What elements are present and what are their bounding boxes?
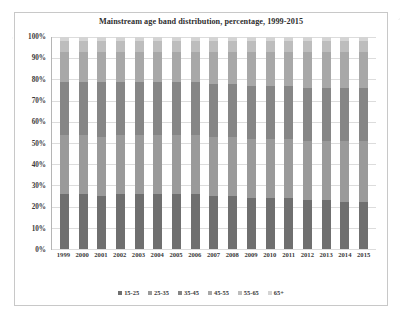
bar-segment-25-35[interactable] bbox=[359, 141, 368, 202]
bar-segment-35-45[interactable] bbox=[247, 86, 256, 139]
bar-segment-15-25[interactable] bbox=[135, 194, 144, 249]
bar-segment-35-45[interactable] bbox=[191, 82, 200, 135]
legend-item-45-55[interactable]: 45-55 bbox=[208, 289, 229, 296]
bar-segment-35-45[interactable] bbox=[60, 82, 69, 135]
bar-column[interactable] bbox=[354, 37, 373, 249]
bar-column[interactable] bbox=[261, 37, 280, 249]
bar-segment-15-25[interactable] bbox=[79, 194, 88, 249]
bar-segment-45-55[interactable] bbox=[359, 52, 368, 88]
bar-segment-25-35[interactable] bbox=[97, 137, 106, 196]
bar-column[interactable] bbox=[336, 37, 355, 249]
bar-column[interactable] bbox=[242, 37, 261, 249]
bar-segment-25-35[interactable] bbox=[322, 141, 331, 200]
bar-segment-55-65[interactable] bbox=[340, 41, 349, 52]
bar-segment-45-55[interactable] bbox=[303, 52, 312, 88]
bar-segment-55-65[interactable] bbox=[191, 41, 200, 52]
bar-segment-55-65[interactable] bbox=[303, 41, 312, 52]
bar-segment-45-55[interactable] bbox=[322, 52, 331, 88]
bar-segment-45-55[interactable] bbox=[135, 52, 144, 82]
bar-segment-35-45[interactable] bbox=[228, 84, 237, 137]
bar-column[interactable] bbox=[298, 37, 317, 249]
bar-column[interactable] bbox=[223, 37, 242, 249]
bar-segment-25-35[interactable] bbox=[303, 141, 312, 200]
bar-segment-35-45[interactable] bbox=[116, 82, 125, 135]
bar-segment-25-35[interactable] bbox=[247, 139, 256, 198]
bar-segment-35-45[interactable] bbox=[135, 82, 144, 135]
bar-segment-45-55[interactable] bbox=[247, 52, 256, 86]
bar-segment-25-35[interactable] bbox=[79, 135, 88, 194]
bar-segment-15-25[interactable] bbox=[303, 200, 312, 249]
bar-column[interactable] bbox=[205, 37, 224, 249]
bar-segment-55-65[interactable] bbox=[209, 41, 218, 52]
bar-segment-55-65[interactable] bbox=[284, 41, 293, 52]
legend-item-65+[interactable]: 65+ bbox=[268, 289, 284, 296]
bar-segment-15-25[interactable] bbox=[116, 194, 125, 249]
bar-column[interactable] bbox=[186, 37, 205, 249]
bar-segment-15-25[interactable] bbox=[340, 202, 349, 249]
legend-item-55-65[interactable]: 55-65 bbox=[238, 289, 259, 296]
bar-segment-35-45[interactable] bbox=[172, 82, 181, 135]
bar-segment-45-55[interactable] bbox=[266, 52, 275, 86]
bar-column[interactable] bbox=[92, 37, 111, 249]
bar-segment-55-65[interactable] bbox=[97, 41, 106, 52]
bar-segment-35-45[interactable] bbox=[79, 82, 88, 135]
bar-column[interactable] bbox=[111, 37, 130, 249]
bar-segment-35-45[interactable] bbox=[359, 88, 368, 141]
bar-segment-35-45[interactable] bbox=[284, 86, 293, 139]
bar-segment-35-45[interactable] bbox=[266, 86, 275, 139]
bar-segment-25-35[interactable] bbox=[191, 135, 200, 194]
bar-segment-15-25[interactable] bbox=[247, 198, 256, 249]
bar-segment-25-35[interactable] bbox=[60, 135, 69, 194]
bar-segment-55-65[interactable] bbox=[135, 41, 144, 52]
bar-segment-45-55[interactable] bbox=[79, 52, 88, 82]
bar-segment-25-35[interactable] bbox=[172, 135, 181, 194]
bar-segment-55-65[interactable] bbox=[60, 41, 69, 52]
bar-segment-45-55[interactable] bbox=[60, 52, 69, 82]
bar-segment-45-55[interactable] bbox=[97, 52, 106, 82]
bar-segment-45-55[interactable] bbox=[191, 52, 200, 82]
bar-segment-45-55[interactable] bbox=[340, 52, 349, 88]
bar-segment-25-35[interactable] bbox=[266, 139, 275, 198]
bar-segment-55-65[interactable] bbox=[172, 41, 181, 52]
bar-segment-25-35[interactable] bbox=[284, 139, 293, 198]
bar-segment-25-35[interactable] bbox=[153, 135, 162, 194]
bar-segment-35-45[interactable] bbox=[153, 82, 162, 135]
bar-column[interactable] bbox=[317, 37, 336, 249]
bar-segment-35-45[interactable] bbox=[209, 84, 218, 137]
bar-segment-45-55[interactable] bbox=[228, 52, 237, 84]
bar-segment-55-65[interactable] bbox=[79, 41, 88, 52]
bar-column[interactable] bbox=[279, 37, 298, 249]
bar-column[interactable] bbox=[55, 37, 74, 249]
bar-segment-25-35[interactable] bbox=[340, 141, 349, 202]
bar-segment-15-25[interactable] bbox=[153, 194, 162, 249]
bar-segment-35-45[interactable] bbox=[340, 88, 349, 141]
bar-segment-15-25[interactable] bbox=[284, 198, 293, 249]
bar-column[interactable] bbox=[130, 37, 149, 249]
bar-segment-15-25[interactable] bbox=[266, 198, 275, 249]
bar-segment-55-65[interactable] bbox=[322, 41, 331, 52]
bar-segment-25-35[interactable] bbox=[228, 137, 237, 196]
bar-segment-15-25[interactable] bbox=[209, 196, 218, 249]
bar-segment-45-55[interactable] bbox=[153, 52, 162, 82]
bar-segment-55-65[interactable] bbox=[116, 41, 125, 52]
bar-segment-35-45[interactable] bbox=[303, 88, 312, 141]
bar-segment-35-45[interactable] bbox=[322, 88, 331, 141]
bar-segment-45-55[interactable] bbox=[116, 52, 125, 82]
bar-segment-45-55[interactable] bbox=[172, 52, 181, 82]
bar-segment-15-25[interactable] bbox=[97, 196, 106, 249]
bar-segment-45-55[interactable] bbox=[284, 52, 293, 86]
bar-segment-25-35[interactable] bbox=[135, 135, 144, 194]
bar-column[interactable] bbox=[149, 37, 168, 249]
bar-segment-55-65[interactable] bbox=[266, 41, 275, 52]
bar-segment-15-25[interactable] bbox=[191, 194, 200, 249]
bar-segment-55-65[interactable] bbox=[247, 41, 256, 52]
bar-segment-15-25[interactable] bbox=[60, 194, 69, 249]
bar-segment-15-25[interactable] bbox=[228, 196, 237, 249]
bar-segment-55-65[interactable] bbox=[359, 41, 368, 52]
bar-segment-25-35[interactable] bbox=[116, 135, 125, 194]
legend-item-15-25[interactable]: 15-25 bbox=[118, 289, 139, 296]
bar-segment-45-55[interactable] bbox=[209, 52, 218, 84]
legend-item-25-35[interactable]: 25-35 bbox=[148, 289, 169, 296]
bar-segment-35-45[interactable] bbox=[97, 82, 106, 137]
bar-segment-25-35[interactable] bbox=[209, 137, 218, 196]
